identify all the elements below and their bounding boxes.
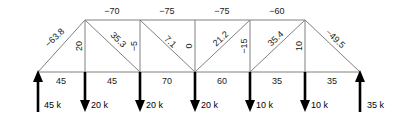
vertical-force-label-1: 20 <box>75 41 84 51</box>
bottom-chord-force-label-6: 35 <box>327 77 337 86</box>
bottom-chord-force-label-4: 60 <box>217 77 227 86</box>
load-label-2: 20 k <box>146 101 163 110</box>
reaction-arrow-right <box>355 70 365 112</box>
bottom-chord-force-label-1: 45 <box>56 77 66 86</box>
bottom-chord-force-label-5: 35 <box>272 77 282 86</box>
load-label-5: 10 k <box>311 101 328 110</box>
reaction-label-left: 45 k <box>44 101 61 110</box>
bottom-chord-force-label-2: 45 <box>107 77 117 86</box>
load-arrow-5 <box>300 72 310 112</box>
load-label-1: 20 k <box>91 101 108 110</box>
top-chord-force-label-3: −75 <box>214 7 229 16</box>
diagonal-member-6 <box>305 20 360 72</box>
reaction-arrow-left <box>33 70 43 112</box>
load-arrow-3 <box>190 72 200 112</box>
load-arrow-2 <box>135 72 145 112</box>
load-arrow-4 <box>245 72 255 112</box>
vertical-force-label-3: 0 <box>185 43 194 48</box>
bottom-chord-force-label-3: 70 <box>162 77 172 86</box>
load-arrow-1 <box>80 72 90 112</box>
vertical-force-label-5: 10 <box>295 41 304 51</box>
load-label-3: 20 k <box>201 101 218 110</box>
reaction-label-right: 35 k <box>367 101 384 110</box>
top-chord-force-label-4: −60 <box>269 7 284 16</box>
truss-force-diagram: −70 −75 −75 −60 45 45 70 60 35 35 20 −5 … <box>0 0 406 120</box>
vertical-force-label-2: −5 <box>130 41 139 51</box>
top-chord-force-label-1: −70 <box>104 7 119 16</box>
load-label-4: 10 k <box>256 101 273 110</box>
vertical-force-label-4: −15 <box>240 38 249 53</box>
top-chord-force-label-2: −75 <box>159 7 174 16</box>
